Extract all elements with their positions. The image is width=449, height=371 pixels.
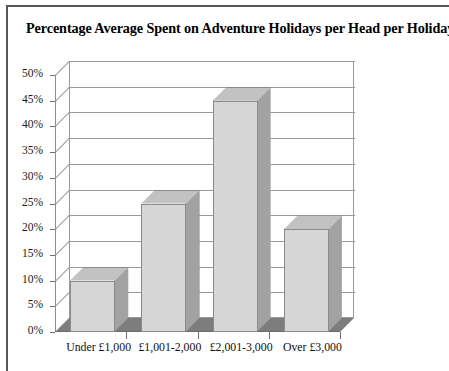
y-axis-tick xyxy=(50,126,55,127)
axis-depth-connector xyxy=(55,241,70,256)
y-axis-tick xyxy=(50,204,55,205)
axis-depth-connector xyxy=(55,61,70,76)
bar-front-face xyxy=(70,281,115,332)
bar-side-face xyxy=(328,215,343,332)
axis-depth-connector xyxy=(55,189,70,204)
y-axis-label: 10% xyxy=(3,273,43,285)
bar-front-face xyxy=(284,229,329,332)
x-axis-tick xyxy=(126,332,127,339)
y-axis-tick xyxy=(50,229,55,230)
y-axis-label: 30% xyxy=(3,170,43,182)
x-axis-label: Over £3,000 xyxy=(257,340,367,355)
bar-side-face xyxy=(185,190,200,333)
y-axis-tick xyxy=(50,255,55,256)
axis-depth-connector xyxy=(55,292,70,307)
y-axis-tick xyxy=(50,306,55,307)
axis-depth-connector xyxy=(55,164,70,179)
bar-front-face xyxy=(213,101,258,332)
y-axis-label: 50% xyxy=(3,67,43,79)
y-axis-tick xyxy=(50,281,55,282)
y-axis-tick xyxy=(50,178,55,179)
y-axis-label: 0% xyxy=(3,324,43,336)
y-axis-label: 25% xyxy=(3,196,43,208)
y-axis-label: 40% xyxy=(3,118,43,130)
axis-depth-connector xyxy=(55,215,70,230)
axis-depth-connector xyxy=(55,87,70,102)
y-axis-tick xyxy=(50,332,55,333)
y-axis-label: 45% xyxy=(3,93,43,105)
y-axis-label: 20% xyxy=(3,221,43,233)
x-axis-tick xyxy=(269,332,270,339)
chart-plot-area: 0%5%10%15%20%25%30%35%40%45%50% Under £1… xyxy=(0,0,449,371)
bar-front-face xyxy=(141,204,186,333)
y-axis-label: 5% xyxy=(3,298,43,310)
y-axis-label: 15% xyxy=(3,247,43,259)
y-axis-label: 35% xyxy=(3,144,43,156)
y-axis-tick xyxy=(50,152,55,153)
chart-screenshot: Percentage Average Spent on Adventure Ho… xyxy=(0,0,449,371)
gridline xyxy=(69,61,355,62)
x-axis-tick xyxy=(198,332,199,339)
y-axis-tick xyxy=(50,75,55,76)
axis-depth-connector xyxy=(55,112,70,127)
x-axis-tick xyxy=(340,332,341,339)
axis-depth-connector xyxy=(55,138,70,153)
gridline xyxy=(69,87,355,88)
bar-side-face xyxy=(257,87,272,332)
axis-depth-connector xyxy=(55,266,70,281)
y-axis-tick xyxy=(50,101,55,102)
